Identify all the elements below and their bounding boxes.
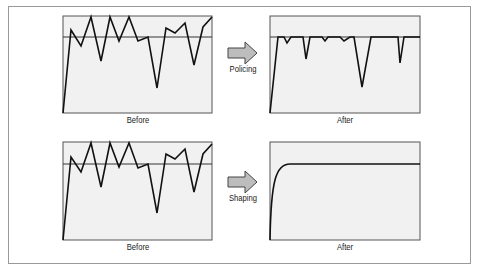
label-shaping: Shaping bbox=[218, 193, 269, 203]
diagram-canvas bbox=[0, 0, 480, 272]
arrow-shaping-icon bbox=[228, 171, 257, 193]
label-after-top: After bbox=[281, 115, 409, 125]
label-policing: Policing bbox=[218, 64, 269, 74]
label-before-bottom: Before bbox=[74, 242, 202, 252]
label-after-bottom: After bbox=[281, 242, 409, 252]
arrow-policing-icon bbox=[228, 42, 257, 64]
label-before-top: Before bbox=[74, 115, 202, 125]
chart-before-policing bbox=[63, 16, 212, 113]
chart-before-shaping bbox=[63, 142, 212, 240]
chart-after-policing bbox=[270, 16, 420, 113]
chart-after-shaping bbox=[270, 142, 420, 240]
